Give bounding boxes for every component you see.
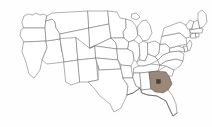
states-layer	[20, 10, 207, 116]
state-MO[interactable]	[117, 49, 134, 66]
state-NJ[interactable]	[187, 40, 192, 51]
state-NM[interactable]	[78, 58, 98, 82]
state-WA[interactable]	[22, 13, 47, 28]
state-RI[interactable]	[196, 33, 199, 37]
state-ME[interactable]	[198, 10, 207, 28]
state-FL[interactable]	[141, 89, 177, 116]
state-OK[interactable]	[96, 58, 121, 70]
state-CT[interactable]	[191, 33, 196, 38]
us-locator-map: United States state locator map Georgia	[0, 0, 212, 127]
state-AZ[interactable]	[64, 60, 80, 85]
state-AR[interactable]	[121, 65, 133, 78]
map-svg	[0, 0, 212, 127]
city-marker[interactable]	[157, 80, 161, 84]
state-OR[interactable]	[20, 28, 46, 42]
